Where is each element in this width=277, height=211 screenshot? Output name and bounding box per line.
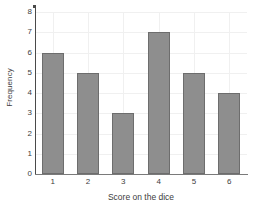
y-axis-tick-label: 0: [28, 170, 32, 178]
bar: [77, 73, 99, 174]
x-axis-tick-label: 1: [50, 178, 54, 186]
y-axis-tick-label: 1: [28, 150, 32, 158]
x-axis-tick-label: 4: [156, 178, 160, 186]
y-axis-tick-label: 5: [28, 69, 32, 77]
y-axis-tick-label: 2: [28, 130, 32, 138]
bar-series: [35, 12, 247, 174]
x-axis-tick-label: 6: [227, 178, 231, 186]
bar-chart-figure: Frequency 012345678 123456 Score on the …: [0, 0, 277, 211]
y-axis-title-text: Frequency: [5, 68, 14, 107]
bar: [218, 93, 240, 174]
y-axis-tick-label: 4: [28, 89, 32, 97]
x-axis-title: Score on the dice: [35, 192, 247, 202]
bar: [148, 32, 170, 174]
x-axis-tick-labels: 123456: [35, 178, 247, 190]
y-axis-line: [35, 6, 36, 174]
y-axis-tick-label: 3: [28, 109, 32, 117]
y-axis-tick-label: 7: [28, 28, 32, 36]
bar: [42, 53, 64, 175]
y-axis-tick-labels: 012345678: [16, 12, 32, 174]
plot-area: [35, 12, 247, 174]
x-axis-tick-label: 5: [192, 178, 196, 186]
bar: [183, 73, 205, 174]
x-axis-line: [35, 174, 248, 175]
x-axis-tick-label: 3: [121, 178, 125, 186]
y-axis-tick-label: 8: [28, 8, 32, 16]
bar: [112, 113, 134, 174]
y-axis-title: Frequency: [2, 0, 16, 175]
y-axis-arrow-cap-icon: [33, 5, 36, 8]
x-axis-tick-label: 2: [86, 178, 90, 186]
y-axis-tick-label: 6: [28, 49, 32, 57]
